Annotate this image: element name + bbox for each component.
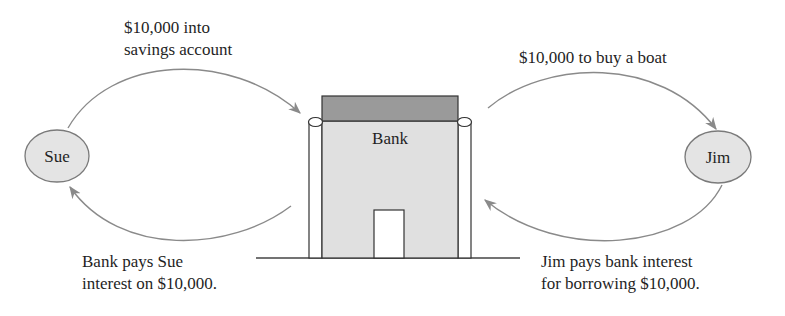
arrow-jim-to-bank [485,185,722,241]
left-column-cap [309,118,323,127]
label-jim-to-bank-line2: for borrowing $10,000. [541,274,700,294]
bank-door [374,210,404,258]
arrow-bank-to-sue [70,187,291,241]
right-column [458,122,471,258]
label-sue-to-bank-line2: savings account [124,40,232,60]
label-sue-to-bank-line1: $10,000 into [124,18,210,38]
left-column [309,122,322,258]
label-bank-to-sue-line1: Bank pays Sue [82,252,183,272]
label-bank-to-sue-line2: interest on $10,000. [82,274,217,294]
node-sue: Sue [25,130,89,182]
bank-roof [322,96,458,121]
label-bank-to-jim-line1: $10,000 to buy a boat [519,48,667,68]
node-jim: Jim [685,131,751,183]
bank-building: Bank [309,96,472,258]
arrow-sue-to-bank [68,69,300,128]
label-jim-to-bank-line1: Jim pays bank interest [541,252,693,272]
jim-label: Jim [706,148,731,167]
arrow-bank-to-jim [488,73,716,129]
bank-label: Bank [372,129,408,148]
bank-intermediation-diagram: Bank Sue Jim $10,000 into savings accoun… [0,0,785,316]
right-column-cap [458,118,472,127]
sue-label: Sue [44,147,70,166]
